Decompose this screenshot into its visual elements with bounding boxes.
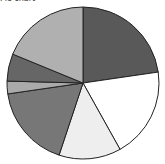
pie-chart [0,0,165,164]
pie-slice-1 [83,7,158,83]
